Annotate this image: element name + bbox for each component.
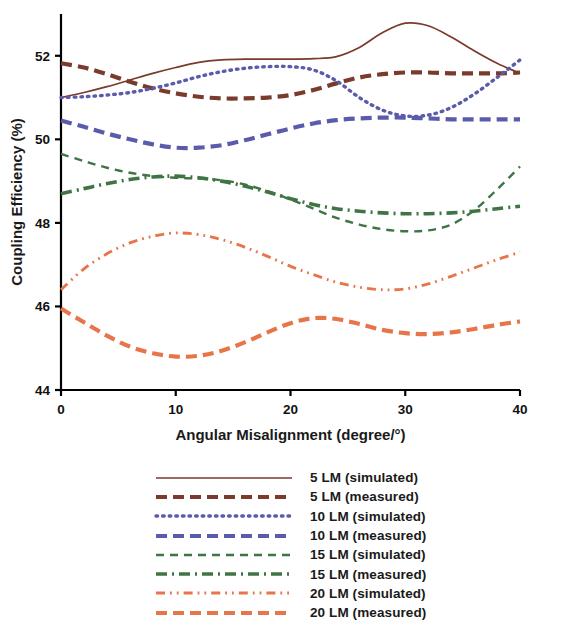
legend-item[interactable]: 15 LM (measured) — [155, 564, 555, 583]
legend-item[interactable]: 20 LM (measured) — [155, 603, 555, 622]
legend-item[interactable]: 5 LM (simulated) — [155, 468, 555, 487]
legend-line-sample — [155, 548, 293, 562]
legend-line-sample — [155, 490, 293, 504]
legend-item-label: 5 LM (simulated) — [293, 470, 418, 485]
x-tick-label: 10 — [168, 402, 183, 417]
x-tick-label: 40 — [512, 402, 527, 417]
legend-item-label: 15 LM (measured) — [293, 567, 426, 582]
legend-line-sample — [155, 471, 293, 485]
legend-line-sample — [155, 567, 293, 581]
legend-item-label: 15 LM (simulated) — [293, 547, 426, 562]
legend-item-label: 10 LM (simulated) — [293, 509, 426, 524]
legend-line-sample — [155, 606, 293, 620]
chart-legend: 5 LM (simulated)5 LM (measured)10 LM (si… — [155, 468, 555, 622]
y-tick-label: 48 — [35, 216, 51, 231]
legend-item[interactable]: 20 LM (simulated) — [155, 584, 555, 603]
x-axis-title: Angular Misalignment (degree/°) — [175, 426, 405, 443]
x-tick-label: 20 — [283, 402, 298, 417]
series-line — [61, 154, 520, 231]
legend-item[interactable]: 10 LM (simulated) — [155, 507, 555, 526]
series-line — [61, 176, 520, 214]
legend-line-sample — [155, 529, 293, 543]
chart-figure: 4446485052010203040Angular Misalignment … — [0, 0, 570, 624]
series-line — [61, 118, 520, 149]
legend-item-label: 20 LM (simulated) — [293, 586, 426, 601]
legend-item-label: 20 LM (measured) — [293, 605, 426, 620]
y-axis-title: Coupling Efficiency (%) — [8, 118, 25, 286]
plot-area: 4446485052010203040Angular Misalignment … — [0, 0, 570, 460]
chart-canvas: 4446485052010203040Angular Misalignment … — [0, 0, 570, 460]
legend-item[interactable]: 5 LM (measured) — [155, 487, 555, 506]
legend-item[interactable]: 15 LM (simulated) — [155, 545, 555, 564]
series-line — [61, 233, 520, 290]
legend-line-sample — [155, 586, 293, 600]
legend-line-sample — [155, 509, 293, 523]
y-tick-label: 50 — [35, 132, 50, 147]
legend-item[interactable]: 10 LM (measured) — [155, 526, 555, 545]
y-tick-label: 44 — [35, 383, 51, 398]
legend-item-label: 10 LM (measured) — [293, 528, 426, 543]
legend-item-label: 5 LM (measured) — [293, 489, 419, 504]
x-tick-label: 30 — [398, 402, 413, 417]
x-tick-label: 0 — [57, 402, 65, 417]
y-tick-label: 52 — [35, 49, 50, 64]
series-line — [61, 60, 520, 116]
y-tick-label: 46 — [35, 299, 51, 314]
series-line — [61, 309, 520, 357]
series-line — [61, 23, 520, 98]
